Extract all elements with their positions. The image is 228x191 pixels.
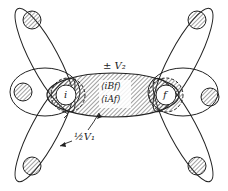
disc-bottom-right: [188, 157, 206, 175]
label-v1: ½V₁: [74, 132, 95, 142]
label-node-f: f: [163, 90, 167, 100]
label-bracket-b: ⟨iBf⟩: [101, 82, 121, 91]
disc-left: [14, 83, 32, 101]
disc-top-left: [23, 11, 41, 29]
label-v2: ± V₂: [103, 61, 126, 71]
disc-top-right: [188, 11, 206, 29]
label-bracket-a: ⟨iAf⟩: [101, 95, 121, 104]
disc-right: [201, 88, 219, 106]
label-node-i: i: [64, 90, 67, 100]
disc-bottom-left: [23, 157, 41, 175]
